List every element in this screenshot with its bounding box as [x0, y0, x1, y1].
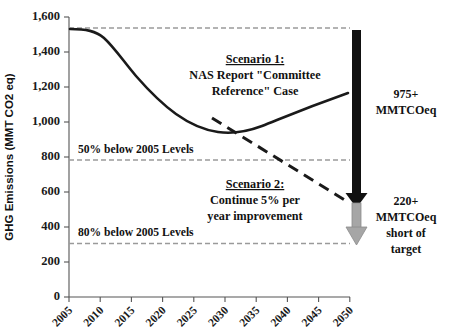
y-tick-0: 0: [54, 289, 60, 303]
y-tick-1600: 1,600: [32, 9, 60, 23]
y-tick-1000: 1,000: [32, 114, 60, 128]
gray-label-line1: 220+: [394, 194, 419, 208]
gray-label-line4: target: [391, 242, 422, 256]
x-tick-2040: 2040: [268, 304, 293, 329]
y-tick-marks: [64, 17, 69, 297]
scenario-1-line3: Reference" Case: [212, 84, 299, 98]
y-tick-1400: 1,400: [32, 44, 60, 58]
black-label-line1: 975+: [394, 87, 419, 101]
ref-label-50-percent: 50% below 2005 Levels: [78, 143, 194, 156]
scenario-2-line2: Continue 5% per: [210, 193, 301, 207]
ghg-emissions-line-chart: 0 200 400 600 800 1,000 1,200 1,400 1,60…: [0, 0, 450, 336]
ref-label-80-percent: 80% below 2005 Levels: [78, 226, 194, 239]
x-tick-2035: 2035: [237, 304, 262, 329]
y-tick-1200: 1,200: [32, 79, 60, 93]
y-axis-title: GHG Emissions (MMT CO2 eq): [3, 73, 15, 241]
axis-lines: [69, 17, 350, 297]
gray-label-line2: MMTCOeq: [376, 210, 437, 224]
scenario-1-line2: NAS Report "Committee: [189, 68, 321, 82]
annotation-scenario-1: Scenario 1: NAS Report "Committee Refere…: [189, 52, 321, 98]
scenario-2-heading: Scenario 2:: [226, 177, 285, 191]
x-tick-2025: 2025: [174, 304, 199, 329]
y-tick-800: 800: [41, 149, 60, 163]
gap-arrow-black-label: 975+ MMTCOeq: [376, 87, 437, 117]
x-tick-2030: 2030: [206, 304, 231, 329]
x-tick-2020: 2020: [143, 304, 168, 329]
annotation-scenario-2: Scenario 2: Continue 5% per year improve…: [207, 177, 302, 223]
shortfall-arrow-gray: [346, 203, 367, 245]
x-tick-2010: 2010: [81, 304, 106, 329]
y-tick-400: 400: [41, 219, 60, 233]
shortfall-arrow-gray-label: 220+ MMTCOeq short of target: [376, 194, 437, 256]
x-tick-2015: 2015: [112, 304, 137, 329]
black-label-line2: MMTCOeq: [376, 103, 437, 117]
scenario-2-line3: year improvement: [207, 209, 302, 223]
y-tick-600: 600: [41, 184, 60, 198]
x-axis-tick-labels: 2005 2010 2015 2020 2025 2030 2035 2040 …: [50, 304, 356, 329]
x-tick-2005: 2005: [50, 304, 75, 329]
gray-label-line3: short of: [386, 226, 427, 240]
gap-arrow-black: [346, 30, 368, 208]
x-tick-2050: 2050: [330, 304, 355, 329]
x-tick-2045: 2045: [299, 304, 324, 329]
chart-container: 0 200 400 600 800 1,000 1,200 1,400 1,60…: [0, 0, 450, 336]
y-tick-200: 200: [41, 254, 60, 268]
scenario-1-heading: Scenario 1:: [226, 52, 285, 66]
x-tick-marks: [69, 297, 350, 302]
y-axis-tick-labels: 0 200 400 600 800 1,000 1,200 1,400 1,60…: [32, 9, 60, 303]
